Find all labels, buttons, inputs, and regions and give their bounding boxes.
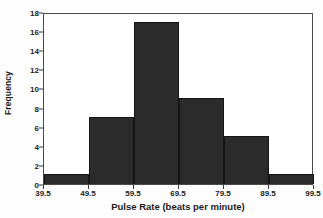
y-axis-tick-label: 6	[35, 123, 39, 132]
y-axis-tick-label: 14	[30, 47, 39, 56]
histogram-figure: Frequency 024681012141618 39.549.559.569…	[0, 0, 323, 218]
x-axis-tick-label: 99.5	[305, 189, 321, 198]
histogram-bar	[269, 174, 314, 184]
histogram-bar	[224, 136, 269, 184]
y-axis-tick-labels: 024681012141618	[16, 0, 41, 218]
x-axis-tick-label: 69.5	[170, 189, 186, 198]
plot-area	[43, 13, 313, 185]
y-axis-tick-label: 18	[30, 9, 39, 18]
histogram-bar	[134, 22, 179, 184]
x-axis-tick-label: 49.5	[80, 189, 96, 198]
x-axis-tick-label: 79.5	[215, 189, 231, 198]
histogram-bar	[179, 98, 224, 184]
histogram-bars	[44, 14, 312, 184]
x-axis-tick-label: 39.5	[35, 189, 51, 198]
x-axis-tick-label: 89.5	[260, 189, 276, 198]
y-axis-tick-label: 12	[30, 66, 39, 75]
y-axis-title-text: Frequency	[3, 71, 13, 115]
histogram-bar	[44, 174, 89, 184]
y-axis-title: Frequency	[0, 0, 16, 186]
histogram-bar	[89, 117, 134, 184]
y-axis-tick-label: 4	[35, 142, 39, 151]
x-axis-tick-label: 59.5	[125, 189, 141, 198]
y-axis-tick-label: 8	[35, 104, 39, 113]
x-axis-title: Pulse Rate (beats per minute)	[43, 201, 313, 212]
y-axis-tick-label: 10	[30, 85, 39, 94]
y-axis-tick-label: 16	[30, 28, 39, 37]
y-axis-tick-label: 2	[35, 161, 39, 170]
